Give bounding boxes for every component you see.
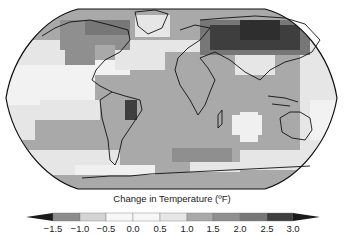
- colorbar-arrow-right: [293, 213, 320, 221]
- colorbar-tick: 2.5: [260, 223, 273, 234]
- colorbar-tick: 2.0: [233, 223, 246, 234]
- colorbar-tick: −0.5: [97, 223, 116, 234]
- colorbar-tick: 1.5: [206, 223, 219, 234]
- world-temperature-map: [0, 0, 344, 195]
- colorbar-title: Change in Temperature (ºF): [0, 193, 344, 204]
- colorbar-tick: 0.5: [153, 223, 166, 234]
- colorbar-arrow-left: [26, 213, 53, 221]
- colorbar-tick: 0.0: [126, 223, 139, 234]
- colorbar-tick: 3.0: [286, 223, 299, 234]
- map-svg: [0, 0, 344, 195]
- colorbar-tick: −1.0: [71, 223, 90, 234]
- temperature-grid: [0, 0, 344, 195]
- colorbar-tick: −1.5: [44, 223, 63, 234]
- colorbar-tick: 1.0: [180, 223, 193, 234]
